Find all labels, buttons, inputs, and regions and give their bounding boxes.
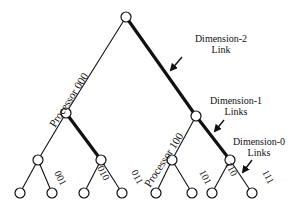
dimension-2-label-line2: Link: [212, 44, 231, 55]
address-001-label: 001: [52, 169, 69, 187]
tree-node-n100: [191, 111, 201, 121]
tree-node-leaf4: [151, 188, 161, 198]
tree-node-leaf3: [117, 188, 127, 198]
thick-link-edge: [196, 116, 230, 160]
dimension-2-arrow-icon: [171, 57, 182, 70]
tree-node-leaf0: [15, 188, 25, 198]
tree-node-leaf6: [207, 188, 217, 198]
tree-node-leaf5: [187, 188, 197, 198]
address-101-label: 101: [197, 168, 214, 186]
dimension-1-label-line2: Links: [225, 106, 248, 117]
tree-node-leaf2: [79, 188, 89, 198]
thick-link-edge: [126, 17, 196, 116]
dimension-1-arrow-icon: [215, 120, 224, 131]
processor-100-label: Processor 100: [142, 130, 186, 189]
link-edge: [172, 160, 192, 193]
link-edge: [20, 160, 38, 193]
address-010-label: 010: [95, 164, 112, 182]
thick-link-edge: [66, 113, 101, 160]
tree-node-leaf7: [247, 188, 257, 198]
tree-node-leaf1: [47, 188, 57, 198]
hypercube-tree-diagram: Processor 000 Processor 100 001 010 011 …: [0, 0, 299, 216]
tree-node-l2a: [33, 155, 43, 165]
dimension-0-label-line1: Dimension-0: [233, 136, 285, 147]
address-111-label: 111: [260, 168, 276, 186]
processor-000-label: Processor 000: [47, 70, 91, 129]
dimension-0-label-line2: Links: [248, 147, 271, 158]
dimension-2-label-line1: Dimension-2: [195, 33, 247, 44]
dimension-1-label-line1: Dimension-1: [210, 95, 262, 106]
dimension-0-arrow-icon: [243, 160, 252, 172]
tree-node-root: [121, 12, 131, 22]
